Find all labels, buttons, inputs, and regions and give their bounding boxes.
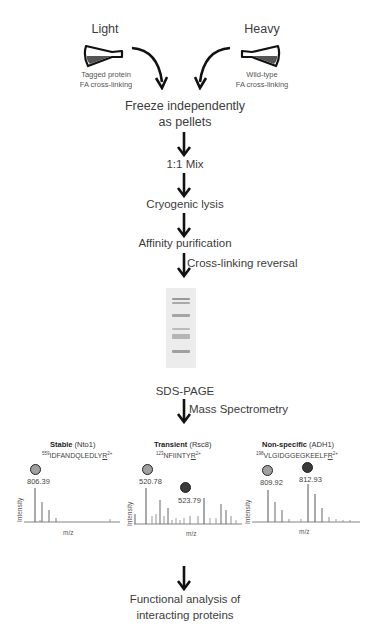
heavy-isotope-marker-icon (302, 462, 313, 473)
down-arrow-icon (176, 131, 192, 157)
sds-page-gel-image (166, 288, 196, 368)
x-axis-label: m/z (186, 530, 196, 537)
heavy-caption: Wild-type FA cross-linking (222, 70, 302, 90)
curved-arrow-left-icon (128, 44, 172, 94)
light-isotope-marker-icon (30, 464, 41, 475)
heavy-label: Heavy (232, 22, 292, 36)
mass-spectrum-plot (250, 484, 362, 524)
light-flask-icon (82, 42, 128, 72)
heavy-peak-label: 812.93 (299, 475, 322, 484)
step-affinity: Affinity purification (105, 237, 265, 249)
peptide-sequence: 198VLGIDGGEGKEELFR2+ (256, 451, 338, 459)
light-peak-label: 806.39 (27, 477, 50, 486)
down-arrow-icon (176, 565, 192, 591)
step-freeze: Freeze independently as pellets (85, 98, 285, 130)
heavy-flask-icon (236, 42, 282, 72)
x-axis-label: m/z (63, 529, 73, 536)
peptide-sequence: 559IDFANDQLEDLYR2+ (42, 451, 113, 459)
step-mass-spec: Mass Spectrometry (189, 403, 288, 415)
step-functional-analysis: Functional analysis of interacting prote… (85, 591, 285, 623)
down-arrow-icon (176, 212, 192, 238)
step-mix: 1:1 Mix (135, 158, 235, 170)
light-label: Light (80, 22, 130, 36)
spectrum-title: Stable (Nto1) (50, 440, 95, 449)
mass-spectrum-plot (132, 486, 244, 526)
step-crosslink-reversal: Cross-linking reversal (187, 257, 298, 269)
light-isotope-marker-icon (142, 464, 153, 475)
curved-arrow-right-icon (190, 44, 234, 94)
light-peak-label: 520.78 (139, 477, 162, 486)
step-lysis: Cryogenic lysis (110, 198, 260, 210)
mass-spectrum-plot (22, 486, 122, 524)
step-sds-page: SDS-PAGE (135, 385, 235, 397)
peptide-sequence: 123NFIINTYR2+ (156, 451, 201, 459)
x-axis-label: m/z (299, 528, 309, 535)
spectrum-title: Non-specific (ADH1) (262, 440, 334, 449)
light-isotope-marker-icon (262, 465, 273, 476)
down-arrow-icon (176, 172, 192, 198)
spectrum-title: Transient (Rsc8) (154, 440, 212, 449)
